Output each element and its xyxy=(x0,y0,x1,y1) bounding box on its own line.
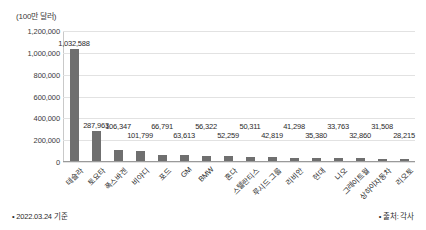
x-axis-category-label: BMW xyxy=(197,165,216,184)
gridline xyxy=(63,118,415,119)
bar[interactable] xyxy=(70,49,79,162)
x-axis-category-label: 테슬라 xyxy=(63,165,85,187)
x-axis-category-labels: 테슬라토요타폭스바겐비야디포드GMBMW혼다스텔란티스루시드 그룹리비안현대니오… xyxy=(63,163,415,203)
bar[interactable] xyxy=(92,131,101,162)
y-axis-tick-label: 400,000 xyxy=(2,114,60,123)
y-axis-tick-label: 1,200,000 xyxy=(2,27,60,36)
bar-value-label: 31,508 xyxy=(356,122,408,131)
y-axis-unit-label: (100만 달러) xyxy=(16,10,56,21)
x-axis-category-label: GM xyxy=(179,165,193,179)
bar-value-label: 28,215 xyxy=(378,131,426,140)
x-axis-line xyxy=(63,161,415,162)
bar-slot xyxy=(85,131,107,162)
bar-value-label: 1,032,588 xyxy=(48,39,100,48)
bar-slot xyxy=(63,49,85,162)
gridline xyxy=(63,53,415,54)
footnote-date: • 2022.03.24 기준 xyxy=(12,210,67,221)
y-axis-tick-label: 1,000,000 xyxy=(2,48,60,57)
y-axis-tick-label: 200,000 xyxy=(2,136,60,145)
x-axis-category-label: 리오토 xyxy=(393,165,415,187)
x-axis-category-label: 폭스바겐 xyxy=(102,165,129,192)
x-axis-category-label: 포드 xyxy=(156,165,173,182)
gridline xyxy=(63,75,415,76)
gridline xyxy=(63,97,415,98)
y-axis-tick-label: 0 xyxy=(2,158,60,167)
y-axis-tick-labels: 1,200,0001,000,000800,000600,000400,0002… xyxy=(0,31,60,162)
x-axis-category-label: 비야디 xyxy=(129,165,151,187)
gridline xyxy=(63,140,415,141)
x-axis-category-label: 현대 xyxy=(310,165,327,182)
y-axis-tick-label: 600,000 xyxy=(2,92,60,101)
bar-chart: (100만 달러) 1,200,0001,000,000800,000600,0… xyxy=(0,0,426,230)
plot-area xyxy=(63,31,415,162)
gridline xyxy=(63,31,415,32)
footnote-source: • 출처: 각사 xyxy=(379,210,414,221)
y-axis-tick-label: 800,000 xyxy=(2,70,60,79)
x-axis-category-label: 혼다 xyxy=(222,165,239,182)
x-axis-category-label: 니오 xyxy=(332,165,349,182)
x-axis-category-label: 리비안 xyxy=(283,165,305,187)
